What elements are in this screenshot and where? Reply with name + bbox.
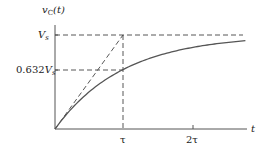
- y-tick-0632vs: 0.632Vs: [16, 64, 56, 77]
- charging-curve: [55, 41, 245, 129]
- rc-charging-chart: vC(t) t Vs 0.632Vs τ 2τ: [0, 0, 265, 146]
- x-axis-label: t: [251, 123, 256, 134]
- x-tick-2tau: 2τ: [186, 134, 198, 145]
- y-tick-vs: Vs: [38, 29, 49, 42]
- tangent-line: [55, 35, 123, 129]
- y-axis-label: vC(t): [42, 4, 65, 17]
- x-tick-tau: τ: [120, 134, 126, 145]
